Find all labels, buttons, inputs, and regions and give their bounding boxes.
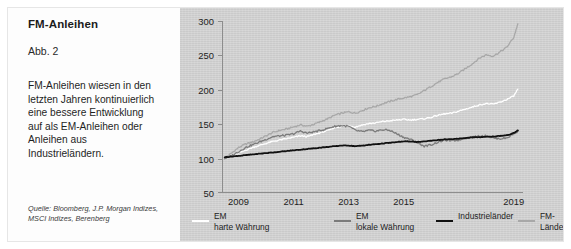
figure-card: FM-Anleihen Abb. 2 FM-Anleihen wiesen in… (8, 8, 563, 241)
x-tick-label-2015: 2015 (393, 196, 414, 207)
legend-item-fm-laender[interactable]: FM-Länder (518, 211, 563, 233)
series-lines (222, 21, 522, 193)
legend-swatch-em-lokale-waehrung (334, 220, 351, 222)
legend-item-industrielaender[interactable]: Industrieländer (436, 211, 513, 222)
y-tick-label-150: 150 (198, 119, 214, 130)
legend-label-em-lokale-waehrung: EM lokale Währung (356, 211, 414, 233)
x-tick-label-2019: 2019 (503, 196, 524, 207)
x-axis-labels: 20092011201320152019 (222, 196, 532, 210)
plot-area (222, 21, 522, 193)
legend-label-industrielaender: Industrieländer (458, 211, 513, 222)
x-tick-label-2011: 2011 (284, 196, 304, 207)
figure-root: FM-Anleihen Abb. 2 FM-Anleihen wiesen in… (0, 0, 571, 249)
y-tick-label-100: 100 (198, 153, 214, 164)
x-tick-label-2013: 2013 (338, 196, 359, 207)
legend-label-fm-laender: FM-Länder (540, 211, 563, 233)
x-tick-label-2009: 2009 (228, 196, 249, 207)
y-axis-labels: 300 250 200 150 100 50 (180, 8, 216, 241)
figure-number: Abb. 2 (28, 45, 172, 57)
chart-panel: 300 250 200 150 100 50 20092011201320152… (180, 8, 563, 241)
legend-item-em-harte-waehrung[interactable]: EM harte Währung (192, 211, 269, 233)
y-tick-label-200: 200 (198, 84, 214, 95)
text-panel: FM-Anleihen Abb. 2 FM-Anleihen wiesen in… (8, 8, 180, 241)
figure-source: Quelle: Bloomberg, J.P. Morgan Indizes, … (28, 204, 168, 223)
figure-description: FM-Anleihen wiesen in den letzten Jahren… (28, 79, 160, 161)
chart-legend: EM harte WährungEM lokale WährungIndustr… (186, 211, 563, 237)
series-line-1 (225, 89, 518, 159)
y-tick-label-250: 250 (198, 50, 214, 61)
legend-swatch-industrielaender (436, 220, 453, 222)
y-tick-label-300: 300 (198, 16, 214, 27)
figure-title: FM-Anleihen (28, 18, 172, 30)
legend-item-em-lokale-waehrung[interactable]: EM lokale Währung (334, 211, 414, 233)
legend-swatch-em-harte-waehrung (192, 220, 209, 222)
legend-swatch-fm-laender (518, 220, 535, 222)
y-tick-label-50: 50 (204, 188, 214, 199)
legend-label-em-harte-waehrung: EM harte Währung (214, 211, 269, 233)
